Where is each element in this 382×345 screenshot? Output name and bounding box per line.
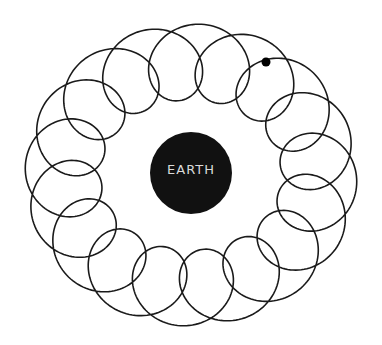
planet-dot	[262, 58, 271, 67]
earth-label: EARTH	[151, 162, 231, 177]
